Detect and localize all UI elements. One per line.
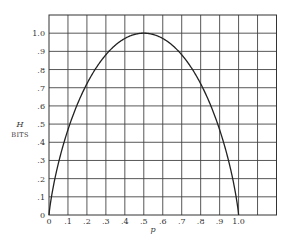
y-tick-label: .4 <box>37 138 45 147</box>
y-tick-label: .9 <box>37 47 45 56</box>
x-tick-labels: 0.1.2.3.4.5.6.7.8.91.0 <box>46 217 244 226</box>
x-tick-label: .3 <box>102 217 110 226</box>
x-tick-label: .4 <box>121 217 129 226</box>
y-tick-label: 0 <box>40 211 45 220</box>
x-tick-label: 1.0 <box>232 217 245 226</box>
y-tick-label: .8 <box>37 66 45 75</box>
grid <box>49 15 277 215</box>
y-tick-label: .5 <box>37 120 45 129</box>
x-tick-label: .7 <box>178 217 186 226</box>
entropy-chart: 0.1.2.3.4.5.6.7.8.91.0 0.1.2.3.4.5.6.7.8… <box>0 0 293 246</box>
y-axis-unit: BITS <box>11 131 28 139</box>
y-tick-label: .6 <box>37 102 45 111</box>
x-tick-label: .6 <box>159 217 167 226</box>
y-tick-label: 1.0 <box>32 29 45 38</box>
y-tick-label: .1 <box>37 193 45 202</box>
x-tick-label: .9 <box>216 217 224 226</box>
y-tick-label: .2 <box>37 175 45 184</box>
y-tick-label: .7 <box>37 84 45 93</box>
x-axis-label: p <box>150 225 155 234</box>
x-tick-label: .2 <box>83 217 91 226</box>
y-tick-label: .3 <box>37 156 45 165</box>
y-axis-label: H <box>16 120 25 129</box>
x-tick-label: 0 <box>46 217 51 226</box>
x-tick-label: .1 <box>64 217 72 226</box>
x-tick-label: .8 <box>197 217 205 226</box>
y-tick-labels: 0.1.2.3.4.5.6.7.8.91.0 <box>32 29 45 220</box>
x-tick-label: .5 <box>140 217 148 226</box>
